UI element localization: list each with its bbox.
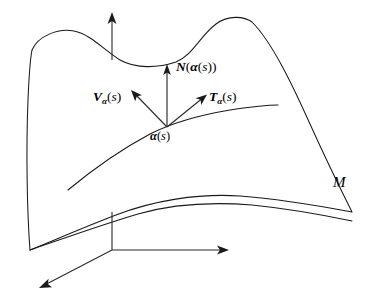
tangent-vector-shaft	[167, 99, 202, 127]
label-tangent-vector: Tα(s)	[209, 90, 237, 106]
diagram-canvas	[0, 0, 386, 304]
label-tangent-paren-close: )	[232, 89, 237, 104]
label-surface: M	[333, 175, 346, 190]
curve-alpha	[68, 105, 278, 190]
label-binormal-vector: Vα(s)	[93, 90, 121, 106]
label-curve-point-paren-close: )	[166, 129, 170, 143]
surface-outline	[27, 17, 352, 250]
surface-fold-edge	[30, 204, 352, 250]
label-normal-arg-alpha: α	[190, 59, 197, 74]
label-tangent-name: T	[209, 89, 217, 104]
axis-diagonal-shaft	[48, 250, 113, 284]
binormal-vector-shaft	[137, 96, 168, 128]
label-normal-name: N	[176, 59, 186, 74]
tangent-vector-arrowhead	[196, 95, 207, 106]
label-surface-symbol: M	[333, 174, 346, 190]
figure-root: N(α(s)) Tα(s) Vα(s) α(s) M	[0, 0, 386, 304]
label-normal-vector: N(α(s))	[176, 60, 216, 74]
label-normal-paren-close: )	[212, 59, 217, 74]
label-binormal-name: V	[93, 89, 102, 104]
axis-diagonal-arrowhead	[39, 279, 52, 288]
label-binormal-paren-close: )	[117, 89, 122, 104]
label-curve-point: α(s)	[150, 130, 170, 143]
label-curve-point-symbol: α	[150, 129, 157, 143]
